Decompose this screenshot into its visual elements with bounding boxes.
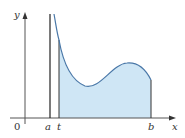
a-label: a bbox=[45, 121, 51, 132]
b-label: b bbox=[148, 121, 154, 132]
y-axis-arrow-icon bbox=[23, 12, 28, 19]
t-label: t bbox=[57, 121, 62, 132]
x-axis-label: x bbox=[172, 121, 178, 132]
origin-label: 0 bbox=[14, 121, 20, 132]
figure: y x 0 a t b bbox=[0, 0, 185, 138]
shaded-area bbox=[59, 40, 151, 118]
graph-svg: y x 0 a t b bbox=[0, 0, 185, 138]
x-axis-arrow-icon bbox=[169, 116, 176, 121]
y-axis-label: y bbox=[13, 9, 20, 20]
